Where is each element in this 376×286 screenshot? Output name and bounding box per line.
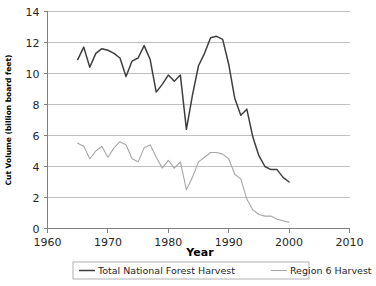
legend-label: Region 6 Harvest (290, 265, 372, 276)
y-axis-tick-labels: 02468101214 (26, 6, 40, 236)
line-chart: 02468101214 196019701980199020002010 Yea… (0, 0, 376, 286)
y-axis-title: Cut Volume (billion board feet) (4, 55, 13, 186)
tickmarks-group (44, 12, 350, 233)
y-axis-tick-label: 12 (26, 37, 40, 50)
legend: Total National Forest HarvestRegion 6 Ha… (73, 262, 372, 279)
series-line-region-6-harvest (78, 142, 289, 223)
y-axis-tick-label: 6 (33, 130, 40, 143)
series-line-total-national-forest-harvest (78, 36, 289, 182)
x-axis-tick-label: 2010 (336, 236, 364, 249)
y-axis-tick-label: 10 (26, 68, 40, 81)
data-series-group (78, 36, 289, 222)
y-axis-tick-label: 8 (33, 99, 40, 112)
x-axis-tick-label: 1990 (215, 236, 243, 249)
chart-canvas: 02468101214 196019701980199020002010 Yea… (0, 0, 376, 286)
x-axis-tick-label: 1980 (154, 236, 182, 249)
x-axis-tick-label: 2000 (275, 236, 303, 249)
x-axis-title: Year (185, 246, 214, 259)
y-axis-tick-label: 14 (26, 6, 40, 19)
y-axis-tick-label: 2 (33, 192, 40, 205)
y-axis-tick-label: 4 (33, 161, 40, 174)
legend-items: Total National Forest HarvestRegion 6 Ha… (79, 265, 372, 276)
x-axis-tick-label: 1970 (94, 236, 122, 249)
y-axis-tick-label: 0 (33, 223, 40, 236)
gridlines-group (48, 12, 350, 198)
x-axis-tick-label: 1960 (34, 236, 62, 249)
legend-label: Total National Forest Harvest (97, 265, 235, 276)
